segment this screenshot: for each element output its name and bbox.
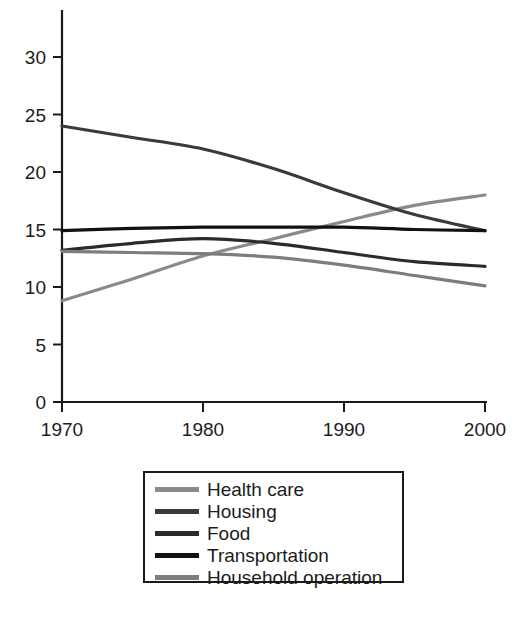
- legend-swatch-health-care: [155, 487, 199, 492]
- x-tick-label: 2000: [464, 419, 506, 440]
- y-tick-label: 10: [25, 277, 46, 298]
- legend-swatch-household-operation: [155, 575, 199, 580]
- legend-item-housing: Housing: [155, 501, 402, 522]
- legend-label-food: Food: [207, 524, 250, 543]
- plot-svg: 0510152025301970198019902000: [0, 0, 517, 460]
- series-line-housing: [62, 126, 485, 231]
- legend-item-health-care: Health care: [155, 479, 402, 500]
- plot-area: 0510152025301970198019902000: [0, 0, 517, 460]
- series-line-transportation: [62, 227, 485, 231]
- y-tick-label: 30: [25, 47, 46, 68]
- legend-item-food: Food: [155, 523, 402, 544]
- y-tick-label: 0: [35, 392, 46, 413]
- y-tick-label: 25: [25, 105, 46, 126]
- legend-label-health-care: Health care: [207, 480, 304, 499]
- x-tick-label: 1970: [41, 419, 83, 440]
- legend-item-household-operation: Household operation: [155, 567, 402, 588]
- y-tick-label: 15: [25, 220, 46, 241]
- line-chart: 0510152025301970198019902000 Health care…: [0, 0, 517, 619]
- x-tick-label: 1990: [323, 419, 365, 440]
- legend-swatch-food: [155, 531, 199, 536]
- chart-legend: Health care Housing Food Transportation …: [143, 471, 404, 583]
- legend-label-transportation: Transportation: [207, 546, 329, 565]
- y-tick-label: 5: [35, 335, 46, 356]
- legend-swatch-transportation: [155, 553, 199, 558]
- y-tick-label: 20: [25, 162, 46, 183]
- legend-label-housing: Housing: [207, 502, 277, 521]
- x-tick-label: 1980: [182, 419, 224, 440]
- legend-item-transportation: Transportation: [155, 545, 402, 566]
- legend-label-household-operation: Household operation: [207, 568, 382, 587]
- series-line-health-care: [62, 195, 485, 301]
- legend-swatch-housing: [155, 509, 199, 514]
